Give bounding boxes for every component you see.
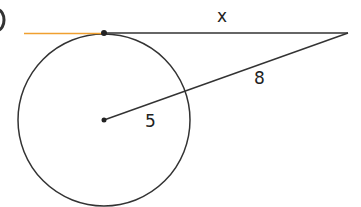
partial-circle-edge xyxy=(0,10,4,30)
label-x: x xyxy=(217,8,227,25)
label-5: 5 xyxy=(145,113,156,130)
label-8: 8 xyxy=(254,70,265,87)
tangent-point xyxy=(101,30,107,36)
secant-line xyxy=(104,33,348,120)
center-point xyxy=(102,118,107,123)
diagram-svg xyxy=(0,0,361,207)
